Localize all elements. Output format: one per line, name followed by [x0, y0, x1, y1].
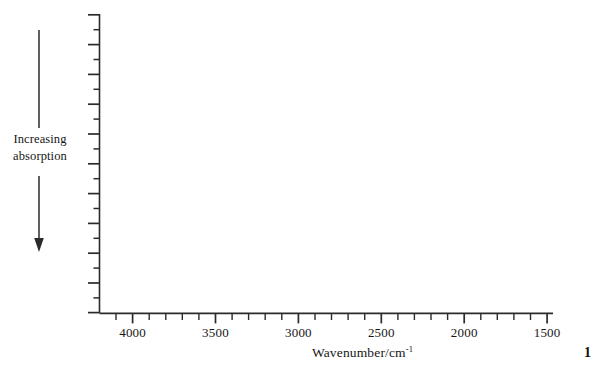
x-axis-title-superscript: -1: [406, 344, 413, 354]
x-axis-title: Wavenumber/cm-1: [0, 345, 601, 361]
x-tick-label-2500: 2500: [368, 325, 395, 341]
x-axis-minor-ticks: [116, 313, 531, 320]
x-axis-title-text: Wavenumber/cm: [312, 345, 406, 360]
x-tick-label-3500: 3500: [202, 325, 229, 341]
y-axis-caption: Increasing absorption: [0, 131, 80, 164]
ir-spectrum-figure: Increasing absorption 4000 3500 3000 250…: [0, 0, 601, 369]
x-axis-major-ticks: [133, 313, 547, 323]
figure-vector-layer: [0, 0, 601, 369]
y-axis-caption-line-1: Increasing: [0, 131, 80, 148]
y-axis-caption-line-2: absorption: [0, 148, 80, 165]
x-tick-label-2000: 2000: [451, 325, 478, 341]
x-tick-label-4000: 4000: [119, 325, 146, 341]
x-tick-label-1500: 1500: [534, 325, 561, 341]
page-number: 1: [584, 345, 591, 361]
x-tick-label-3000: 3000: [285, 325, 312, 341]
